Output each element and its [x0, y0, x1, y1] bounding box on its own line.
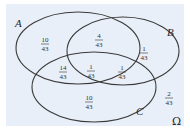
set-a-label: A [14, 17, 22, 29]
region-b-only: 1 43 [140, 45, 148, 62]
svg-text:10: 10 [42, 36, 50, 44]
svg-text:43: 43 [166, 99, 174, 107]
venn-diagram: A B C Ω 10 43 4 43 1 43 14 43 1 [0, 0, 190, 129]
region-outside: 2 43 [165, 90, 173, 107]
svg-text:43: 43 [96, 41, 104, 49]
svg-text:43: 43 [42, 45, 50, 53]
svg-text:10: 10 [86, 94, 94, 102]
svg-text:43: 43 [119, 73, 127, 81]
region-a-b-c: 1 43 [87, 63, 95, 80]
svg-text:1: 1 [89, 63, 93, 71]
svg-text:14: 14 [60, 64, 68, 72]
svg-text:43: 43 [86, 103, 94, 111]
region-c-only: 10 43 [85, 94, 93, 111]
set-b-label: B [167, 26, 174, 38]
svg-text:2: 2 [167, 90, 171, 98]
svg-text:43: 43 [141, 54, 149, 62]
region-a-only: 10 43 [41, 36, 49, 53]
universe-label: Ω [172, 115, 181, 128]
svg-text:4: 4 [97, 32, 101, 40]
svg-text:1: 1 [142, 45, 146, 53]
svg-text:43: 43 [60, 73, 68, 81]
region-a-and-c: 14 43 [59, 64, 67, 81]
svg-text:1: 1 [120, 64, 124, 72]
venn-diagram-frame: A B C Ω 10 43 4 43 1 43 14 43 1 [0, 0, 190, 129]
region-a-and-b: 4 43 [95, 32, 103, 49]
svg-text:43: 43 [88, 72, 96, 80]
set-c-label: C [136, 105, 144, 117]
region-b-and-c: 1 43 [118, 64, 126, 81]
